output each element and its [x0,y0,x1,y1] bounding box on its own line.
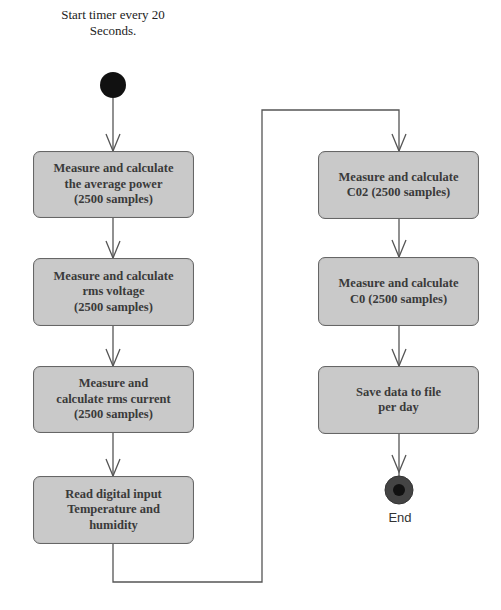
step-save-data: Save data to file per day [318,366,479,434]
step-rms-current: Measure and calculate rms current (2500 … [33,366,194,433]
flowchart-canvas: Start timer every 20 Seconds. Measure an… [0,0,501,610]
end-label: End [370,510,430,525]
step-co: Measure and calculate C0 (2500 samples) [318,257,479,326]
step-read-digital-input: Read digital input Temperature and humid… [33,476,194,544]
step-co2: Measure and calculate C02 (2500 samples) [318,151,479,219]
step-average-power: Measure and calculate the average power … [33,151,194,218]
start-label: Start timer every 20 Seconds. [13,7,213,39]
step-rms-voltage: Measure and calculate rms voltage (2500 … [33,258,194,326]
start-node-icon [100,72,126,98]
